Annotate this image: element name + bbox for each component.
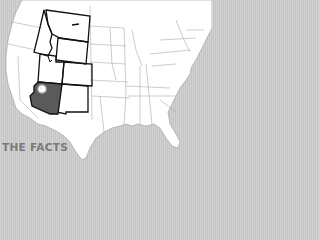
circle-marker-icon xyxy=(37,84,47,94)
facts-label: THE FACTS xyxy=(2,141,68,153)
us-map xyxy=(0,0,212,162)
us-landmass xyxy=(6,0,212,160)
montana-mark-icon xyxy=(72,24,79,25)
